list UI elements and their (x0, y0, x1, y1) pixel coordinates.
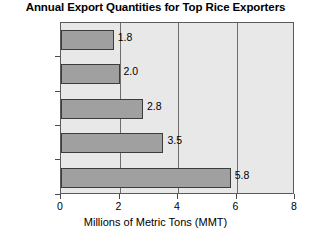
x-axis-tick-8 (294, 194, 295, 199)
bar-row: 5.8 (61, 161, 293, 195)
x-axis-tick-label-0: 0 (50, 200, 70, 212)
x-axis-tick-label-4: 4 (167, 200, 187, 212)
bar-u-s[interactable] (61, 99, 143, 119)
x-axis-tick-4 (177, 194, 178, 199)
bar-row: 2.0 (61, 57, 293, 91)
chart-title: Annual Export Quantities for Top Rice Ex… (0, 1, 311, 13)
bar-pakistan[interactable] (61, 30, 114, 50)
bar-row: 1.8 (61, 23, 293, 57)
bar-value-label: 3.5 (167, 134, 182, 146)
bar-value-label: 5.8 (235, 169, 250, 181)
bar-value-label: 1.8 (118, 31, 133, 43)
bar-value-label: 2.0 (124, 65, 139, 77)
bar-vietnam[interactable] (61, 133, 163, 153)
x-axis-label: Millions of Metric Tons (MMT) (0, 216, 311, 228)
x-axis-tick-label-8: 8 (284, 200, 304, 212)
x-axis-tick-label-6: 6 (226, 200, 246, 212)
bar-chart-figure: Annual Export Quantities for Top Rice Ex… (0, 0, 311, 241)
bars-layer: 1.82.02.83.55.8 (61, 23, 293, 193)
x-axis-tick-label-2: 2 (109, 200, 129, 212)
bar-thailand[interactable] (61, 168, 231, 188)
bar-value-label: 2.8 (147, 100, 162, 112)
bar-row: 2.8 (61, 92, 293, 126)
plot-area: 1.82.02.83.55.8 (60, 22, 294, 194)
bar-india[interactable] (61, 64, 120, 84)
x-axis-tick-6 (236, 194, 237, 199)
x-axis-tick-0 (60, 194, 61, 199)
bar-row: 3.5 (61, 126, 293, 160)
x-axis-tick-2 (119, 194, 120, 199)
